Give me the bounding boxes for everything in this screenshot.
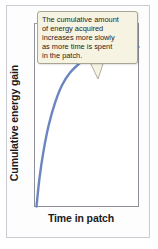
callout-line-3: increases more slowly: [42, 33, 133, 42]
callout-box: The cumulative amount of energy acquired…: [37, 11, 138, 64]
callout-line-1: The cumulative amount: [42, 15, 133, 24]
x-axis-label: Time in patch: [20, 212, 142, 224]
callout-line-4: as more time is spent: [42, 42, 133, 51]
callout-line-5: in the patch.: [42, 51, 133, 60]
y-axis-label: Cumulative energy gain: [8, 30, 22, 216]
figure-container: The cumulative amount of energy acquired…: [0, 0, 158, 249]
callout-line-2: of energy acquired: [42, 24, 133, 33]
